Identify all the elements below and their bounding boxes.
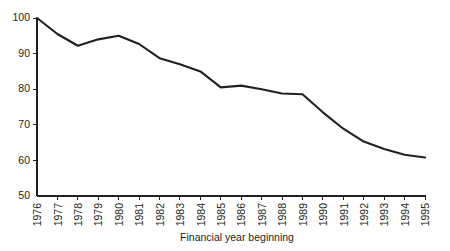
x-tick-label: 1984 bbox=[195, 203, 207, 227]
chart-canvas: 5060708090100 19761977197819791980198119… bbox=[0, 0, 450, 251]
x-tick-label: 1994 bbox=[399, 203, 411, 227]
x-axis: 1976197719781979198019811982198319841985… bbox=[31, 196, 431, 226]
x-tick-label: 1980 bbox=[113, 203, 125, 227]
x-tick-label: 1986 bbox=[235, 203, 247, 227]
line-chart: 5060708090100 19761977197819791980198119… bbox=[0, 0, 450, 251]
x-tick-label: 1987 bbox=[256, 203, 268, 227]
data-series-group bbox=[37, 18, 425, 158]
x-tick-label: 1995 bbox=[419, 203, 431, 227]
x-tick-label: 1982 bbox=[154, 203, 166, 227]
y-axis: 5060708090100 bbox=[12, 11, 37, 201]
x-tick-label: 1977 bbox=[52, 203, 64, 227]
y-tick-label: 90 bbox=[18, 47, 30, 59]
y-tick-label: 80 bbox=[18, 82, 30, 94]
y-tick-label: 60 bbox=[18, 154, 30, 166]
x-tick-label: 1988 bbox=[276, 203, 288, 227]
x-tick-label: 1981 bbox=[133, 203, 145, 227]
x-tick-label: 1991 bbox=[338, 203, 350, 227]
x-tick-label: 1989 bbox=[297, 203, 309, 227]
x-tick-label: 1992 bbox=[358, 203, 370, 227]
x-tick-label: 1979 bbox=[92, 203, 104, 227]
y-tick-label: 50 bbox=[18, 189, 30, 201]
y-tick-label: 100 bbox=[12, 11, 30, 23]
x-tick-label: 1983 bbox=[174, 203, 186, 227]
y-tick-label: 70 bbox=[18, 118, 30, 130]
x-axis-title: Financial year beginning bbox=[180, 231, 294, 243]
x-tick-label: 1978 bbox=[72, 203, 84, 227]
x-tick-label: 1976 bbox=[31, 203, 43, 227]
data-line bbox=[37, 18, 425, 158]
x-tick-label: 1985 bbox=[215, 203, 227, 227]
x-tick-label: 1993 bbox=[378, 203, 390, 227]
x-tick-label: 1990 bbox=[317, 203, 329, 227]
